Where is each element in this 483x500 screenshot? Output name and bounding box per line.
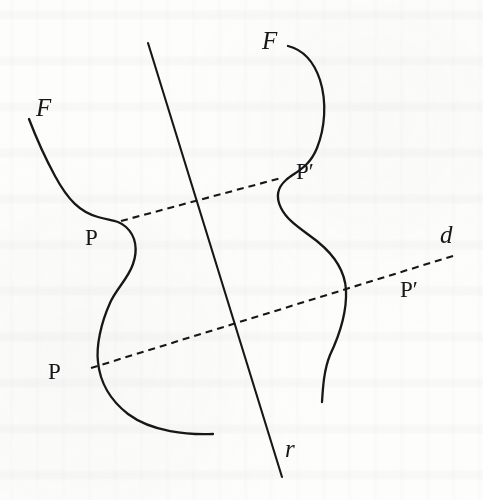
reflection-diagram xyxy=(0,0,483,500)
label-r-line: r xyxy=(285,436,295,461)
figure-canvas: F F P P P′ P′ d r xyxy=(0,0,483,500)
label-p-lower: P xyxy=(48,360,61,383)
label-d-line: d xyxy=(440,222,453,247)
label-f-left: F xyxy=(36,95,51,120)
label-f-right: F xyxy=(262,28,277,53)
axis-of-symmetry-r xyxy=(148,43,282,477)
curve-figure-f-right xyxy=(278,46,346,402)
label-p-prime-upper: P′ xyxy=(296,160,314,183)
label-p-prime-lower: P′ xyxy=(400,278,418,301)
connector-d-lower xyxy=(91,255,456,368)
label-p-upper: P xyxy=(85,226,98,249)
